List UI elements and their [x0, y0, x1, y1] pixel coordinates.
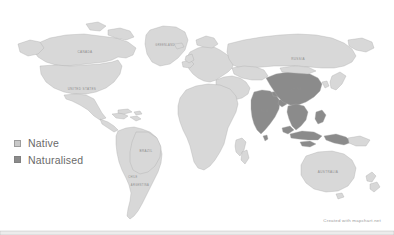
- legend-swatch-native: [14, 140, 21, 147]
- attribution-text: Created with mapchart.net: [323, 218, 381, 223]
- region-antarctica-edge: [0, 231, 394, 235]
- legend-item-naturalised[interactable]: Naturalised: [14, 155, 83, 166]
- legend-label-native: Native: [28, 138, 59, 149]
- legend-label-naturalised: Naturalised: [28, 155, 83, 166]
- map-canvas[interactable]: CANADA UNITED STATES GREENLAND BRAZIL CH…: [0, 0, 394, 235]
- world-map-figure: CANADA UNITED STATES GREENLAND BRAZIL CH…: [0, 0, 394, 235]
- map-legend: Native Naturalised: [14, 138, 83, 165]
- legend-swatch-naturalised: [14, 156, 21, 163]
- legend-item-native[interactable]: Native: [14, 138, 83, 149]
- world-map-svg[interactable]: CANADA UNITED STATES GREENLAND BRAZIL CH…: [0, 0, 394, 235]
